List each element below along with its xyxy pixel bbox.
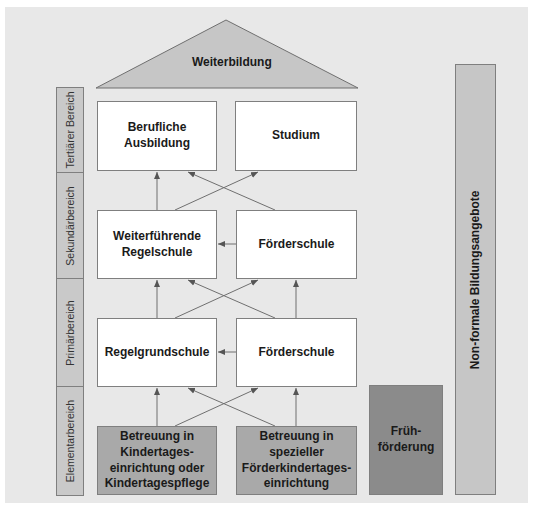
bar-non-formale-bildungsangebote: Non-formale Bildungsangebote — [455, 64, 496, 495]
stage-label-tertiary: Tertiärer Bereich — [64, 91, 76, 168]
weiterbildung-triangle — [96, 20, 358, 88]
stage-tertiary: Tertiärer Bereich — [56, 87, 84, 173]
box-studium: Studium — [235, 101, 357, 171]
box-berufliche-ausbildung: Berufliche Ausbildung — [97, 101, 217, 171]
stage-label-elementary: Elementarbereich — [64, 400, 76, 482]
non-formal-label: Non-formale Bildungsangebote — [468, 190, 484, 369]
box-foerderschule-primary: Förderschule — [236, 318, 357, 387]
box-weiterfuehrende-regelschule: Weiterführende Regelschule — [97, 210, 217, 279]
stage-secondary: Sekundärbereich — [56, 172, 84, 279]
stage-primary: Primärbereich — [56, 278, 84, 387]
box-betreuung-foerderkindertageseinrichtung: Betreuung in spezieller Förderkindertage… — [236, 426, 357, 495]
box-regelgrundschule: Regelgrundschule — [97, 318, 217, 387]
weiterbildung-label: Weiterbildung — [192, 55, 272, 69]
stage-label-primary: Primärbereich — [64, 300, 76, 365]
stage-elementary: Elementarbereich — [56, 386, 84, 496]
box-betreuung-kindertageseinrichtung: Betreuung in Kindertages- einrichtung od… — [97, 426, 217, 495]
box-foerderschule-secondary: Förderschule — [236, 210, 357, 279]
box-fruehfoerderung: Früh- förderung — [369, 385, 443, 495]
stage-label-secondary: Sekundärbereich — [64, 186, 76, 265]
